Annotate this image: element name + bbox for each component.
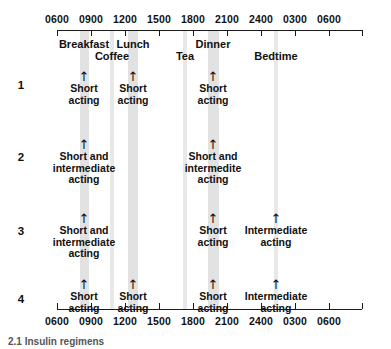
- axis-line-top: [57, 30, 362, 31]
- dose-label: Shortacting: [198, 83, 229, 106]
- dose-label: Shortacting: [118, 83, 149, 106]
- dose-marker: ↑Short andintermediateacting: [53, 140, 115, 186]
- axis-tick-label-top-1: 0900: [79, 13, 103, 25]
- axis-tick-bottom-8: [329, 303, 330, 309]
- axis-tick-top-2: [125, 30, 126, 36]
- axis-tick-top-7: [295, 30, 296, 36]
- dose-label: Intermediateacting: [245, 291, 307, 314]
- dose-label: Intermediateacting: [245, 225, 307, 248]
- dose-label: Short andintermediateacting: [53, 151, 115, 186]
- axis-tick-label-top-4: 1800: [181, 13, 205, 25]
- axis-tick-top-8: [329, 30, 330, 36]
- up-arrow-icon: ↑: [198, 280, 229, 289]
- axis-tick-top-0: [57, 30, 58, 36]
- axis-tick-label-bottom-6: 2400: [249, 315, 273, 327]
- axis-tick-label-top-2: 1200: [113, 13, 137, 25]
- row-number-4: 4: [18, 293, 24, 305]
- up-arrow-icon: ↑: [53, 140, 115, 149]
- axis-tick-label-bottom-3: 1500: [147, 315, 171, 327]
- dose-marker: ↑Short andintermediateacting: [53, 214, 115, 260]
- axis-tick-bottom-end: [362, 303, 363, 309]
- row-number-3: 3: [18, 225, 24, 237]
- up-arrow-icon: ↑: [198, 72, 229, 81]
- axis-tick-top-end: [362, 30, 363, 36]
- row-number-2: 2: [18, 151, 24, 163]
- meal-label-bedtime: Bedtime: [254, 50, 297, 62]
- axis-tick-label-bottom-4: 1800: [181, 315, 205, 327]
- axis-tick-label-bottom-1: 0900: [79, 315, 103, 327]
- axis-tick-label-bottom-7: 0300: [283, 315, 307, 327]
- meal-label-breakfast: Breakfast: [59, 38, 109, 50]
- dose-label: Short andintermediteacting: [185, 151, 242, 186]
- meal-label-coffee: Coffee: [95, 50, 129, 62]
- axis-tick-label-bottom-2: 1200: [113, 315, 137, 327]
- dose-label: Shortacting: [198, 291, 229, 314]
- axis-tick-top-5: [227, 30, 228, 36]
- up-arrow-icon: ↑: [69, 72, 100, 81]
- axis-tick-top-1: [91, 30, 92, 36]
- dose-label: Short andintermediateacting: [53, 225, 115, 260]
- axis-tick-label-bottom-5: 2100: [215, 315, 239, 327]
- axis-tick-label-top-7: 0300: [283, 13, 307, 25]
- axis-tick-bottom-3: [159, 303, 160, 309]
- axis-tick-label-top-3: 1500: [147, 13, 171, 25]
- dose-label: Shortacting: [69, 83, 100, 106]
- axis-tick-top-4: [193, 30, 194, 36]
- dose-marker: ↑Intermediateacting: [245, 214, 307, 248]
- up-arrow-icon: ↑: [245, 214, 307, 223]
- row-number-1: 1: [18, 79, 24, 91]
- figure-caption: 2.1 Insulin regimens: [8, 336, 104, 347]
- dose-marker: ↑Shortacting: [69, 280, 100, 314]
- dose-marker: ↑Shortacting: [69, 72, 100, 106]
- up-arrow-icon: ↑: [198, 214, 229, 223]
- dose-marker: ↑Shortacting: [118, 72, 149, 106]
- axis-tick-label-bottom-8: 0600: [317, 315, 341, 327]
- meal-label-tea: Tea: [176, 50, 194, 62]
- axis-tick-bottom-4: [193, 303, 194, 309]
- dose-marker: ↑Shortacting: [198, 280, 229, 314]
- insulin-regimen-figure: 060009001200150018002100240003000600 060…: [0, 0, 391, 349]
- up-arrow-icon: ↑: [185, 140, 242, 149]
- axis-tick-bottom-0: [57, 303, 58, 309]
- axis-tick-label-top-5: 2100: [215, 13, 239, 25]
- up-arrow-icon: ↑: [245, 280, 307, 289]
- axis-tick-label-top-6: 2400: [249, 13, 273, 25]
- up-arrow-icon: ↑: [118, 280, 149, 289]
- dose-label: Shortacting: [118, 291, 149, 314]
- dose-marker: ↑Shortacting: [198, 72, 229, 106]
- up-arrow-icon: ↑: [53, 214, 115, 223]
- dose-marker: ↑Short andintermediteacting: [185, 140, 242, 186]
- bedtime-band: [274, 30, 278, 309]
- up-arrow-icon: ↑: [69, 280, 100, 289]
- axis-tick-label-top-0: 0600: [45, 13, 69, 25]
- axis-tick-top-6: [261, 30, 262, 36]
- dose-label: Shortacting: [198, 225, 229, 248]
- meal-label-lunch: Lunch: [117, 38, 150, 50]
- up-arrow-icon: ↑: [118, 72, 149, 81]
- dose-marker: ↑Intermediateacting: [245, 280, 307, 314]
- dose-marker: ↑Shortacting: [198, 214, 229, 248]
- dose-label: Shortacting: [69, 291, 100, 314]
- axis-tick-top-3: [159, 30, 160, 36]
- axis-tick-label-bottom-0: 0600: [45, 315, 69, 327]
- axis-tick-label-top-8: 0600: [317, 13, 341, 25]
- meal-label-dinner: Dinner: [196, 38, 231, 50]
- dose-marker: ↑Shortacting: [118, 280, 149, 314]
